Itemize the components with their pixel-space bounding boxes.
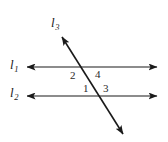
line-label-l1: l1 bbox=[10, 58, 18, 71]
geometry-figure: l1 l2 l3 2 4 1 3 bbox=[0, 0, 168, 142]
line-label-l2-subscript: 2 bbox=[14, 92, 18, 102]
angle-label-4: 4 bbox=[95, 69, 101, 80]
line-label-l2: l2 bbox=[10, 86, 18, 99]
angle-label-3: 3 bbox=[103, 83, 109, 94]
angle-label-1: 1 bbox=[83, 83, 89, 94]
angle-label-2: 2 bbox=[70, 70, 76, 81]
line-label-l1-subscript: 1 bbox=[14, 64, 18, 74]
line-l3-transversal bbox=[62, 37, 123, 134]
figure-canvas bbox=[0, 0, 168, 142]
line-label-l3: l3 bbox=[51, 16, 59, 29]
line-label-l3-subscript: 3 bbox=[55, 22, 59, 32]
